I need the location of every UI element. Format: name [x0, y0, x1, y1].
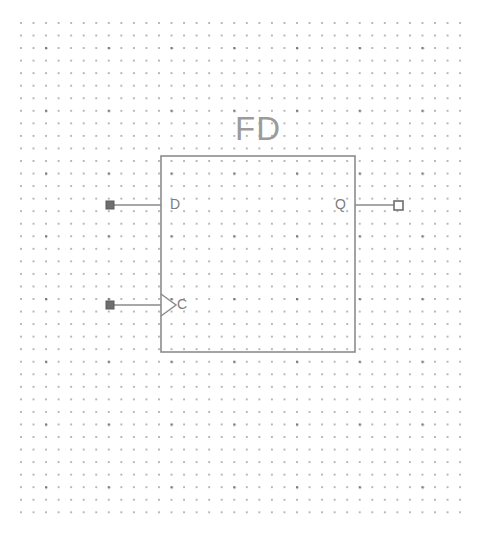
- symbol-body-rect[interactable]: [161, 156, 355, 352]
- pin-terminal-c[interactable]: [106, 301, 114, 309]
- pin-label-q: Q: [318, 197, 346, 211]
- schematic-canvas[interactable]: FD D C Q: [0, 0, 485, 545]
- symbol-name-label: FD: [161, 112, 355, 145]
- pin-terminal-d[interactable]: [106, 201, 114, 209]
- pin-label-d: D: [170, 197, 180, 211]
- pin-terminal-q[interactable]: [394, 201, 403, 210]
- clock-triangle-icon: [161, 294, 176, 316]
- pin-label-c: C: [177, 297, 187, 311]
- symbol-vector-layer: [0, 0, 485, 545]
